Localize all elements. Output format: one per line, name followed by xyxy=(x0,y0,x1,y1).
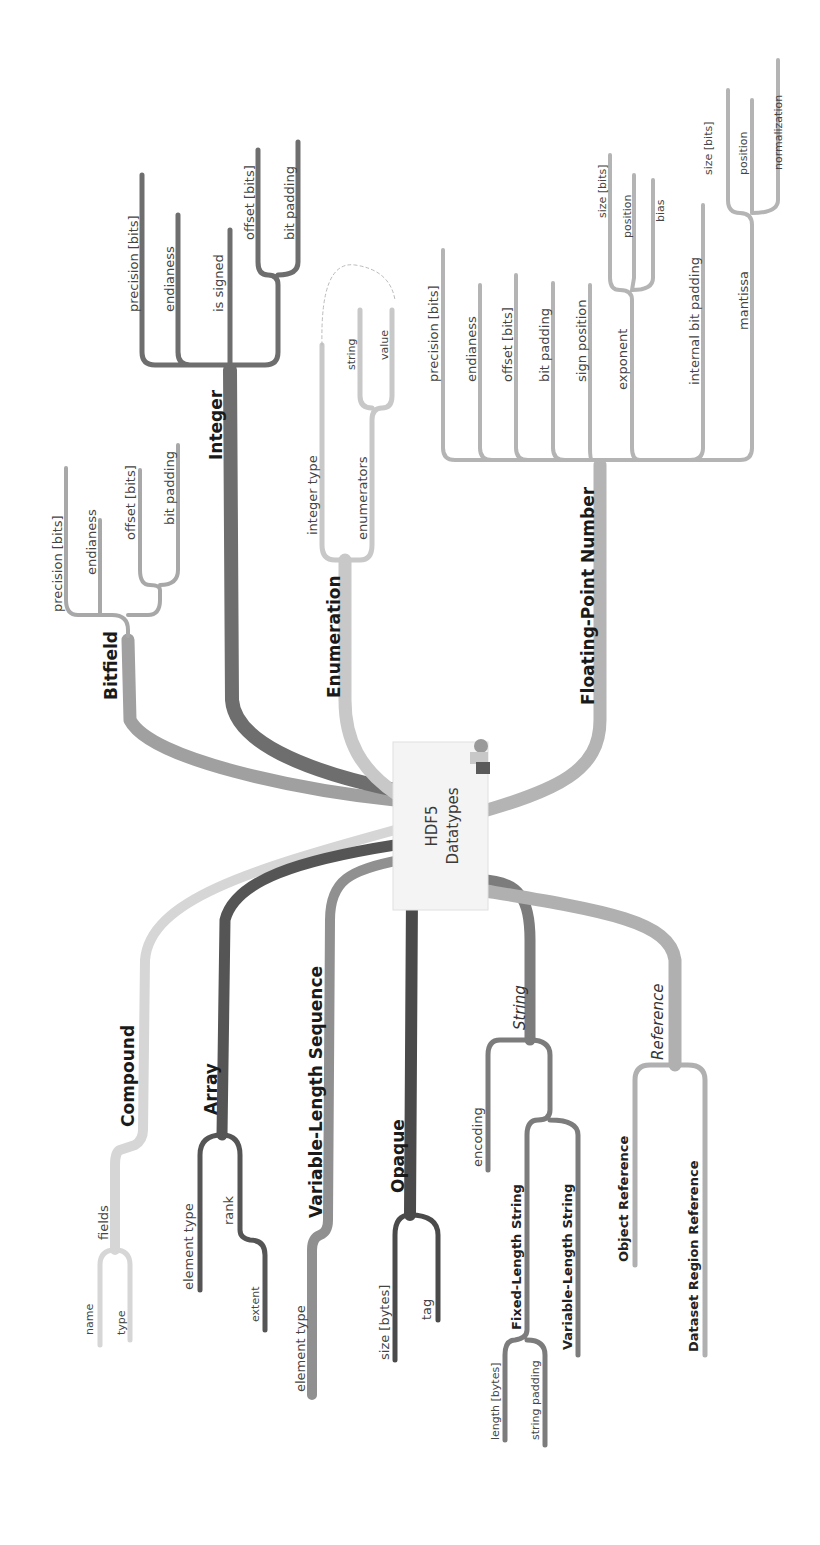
fp-internal-bit-padding: internal bit padding xyxy=(687,257,702,385)
label-floating-point[interactable]: Floating-Point Number xyxy=(578,486,598,705)
branch-compound xyxy=(115,830,395,1250)
fp-sign-position: sign position xyxy=(574,299,589,382)
branch-floating-point-sub xyxy=(443,60,778,460)
fp-mantissa-position: position xyxy=(737,131,750,175)
branch-opaque xyxy=(410,895,412,1215)
array-extent: extent xyxy=(249,1286,262,1322)
fp-endianess: endianess xyxy=(464,316,479,382)
fp-mantissa-normalization: normalization xyxy=(772,95,785,170)
opaque-size: size [bytes] xyxy=(377,1285,392,1360)
string-encoding: encoding xyxy=(470,1107,485,1167)
reference-object: Object Reference xyxy=(616,1135,631,1262)
branch-enumeration xyxy=(345,560,398,795)
label-bitfield[interactable]: Bitfield xyxy=(101,631,121,700)
bitfield-bit-padding: bit padding xyxy=(162,451,177,525)
bitfield-offset: offset [bits] xyxy=(123,465,138,540)
integer-bit-padding: bit padding xyxy=(282,166,297,240)
string-fixed-length: Fixed-Length String xyxy=(509,1184,524,1330)
string-length: length [bytes] xyxy=(489,1363,502,1440)
label-enumeration[interactable]: Enumeration xyxy=(324,575,344,698)
array-rank: rank xyxy=(221,1195,236,1225)
fp-exponent-size: size [bits] xyxy=(596,165,609,219)
string-padding: string padding xyxy=(529,1360,542,1440)
compound-fields: fields xyxy=(96,1205,111,1240)
fp-mantissa-size: size [bits] xyxy=(702,122,715,176)
opaque-tag: tag xyxy=(419,1299,434,1320)
enum-value: value xyxy=(378,330,391,360)
label-reference[interactable]: Reference xyxy=(649,983,667,1060)
label-integer[interactable]: Integer xyxy=(206,389,226,460)
bitfield-endianess: endianess xyxy=(84,509,99,575)
integer-endianess: endianess xyxy=(162,246,177,312)
compound-type: type xyxy=(115,1310,128,1335)
mind-map: HDF5 Datatypes Bitfield Integer Enumerat… xyxy=(0,0,820,1545)
enum-enumerators: enumerators xyxy=(355,456,370,540)
label-compound[interactable]: Compound xyxy=(118,1025,138,1127)
fp-offset: offset [bits] xyxy=(500,307,515,382)
bitfield-precision: precision [bits] xyxy=(50,515,65,612)
branch-opaque-sub xyxy=(395,1215,438,1360)
integer-precision: precision [bits] xyxy=(126,215,141,312)
fp-mantissa: mantissa xyxy=(736,271,751,330)
label-array[interactable]: Array xyxy=(201,1063,221,1115)
enum-string: string xyxy=(345,338,358,370)
reference-dataset-region: Dataset Region Reference xyxy=(686,1160,701,1352)
vlen-element-type: element type xyxy=(293,1305,308,1392)
label-string[interactable]: String xyxy=(511,985,529,1030)
integer-offset: offset [bits] xyxy=(242,165,257,240)
center-node[interactable]: HDF5 Datatypes xyxy=(393,739,490,910)
center-title-line1: HDF5 xyxy=(423,805,441,846)
integer-is-signed: is signed xyxy=(211,254,226,312)
fp-exponent: exponent xyxy=(615,329,630,390)
label-vlen[interactable]: Variable-Length Sequence xyxy=(306,966,326,1218)
fp-precision: precision [bits] xyxy=(426,285,441,382)
string-variable-length: Variable-Length String xyxy=(560,1184,575,1350)
center-title-line2: Datatypes xyxy=(444,787,462,864)
fp-exponent-bias: bias xyxy=(654,199,667,222)
enum-integer-type: integer type xyxy=(305,455,320,535)
compound-name: name xyxy=(83,1304,96,1335)
fp-exponent-position: position xyxy=(621,194,634,238)
fp-bit-padding: bit padding xyxy=(537,308,552,382)
array-element-type: element type xyxy=(181,1203,196,1290)
label-opaque[interactable]: Opaque xyxy=(388,1119,408,1193)
